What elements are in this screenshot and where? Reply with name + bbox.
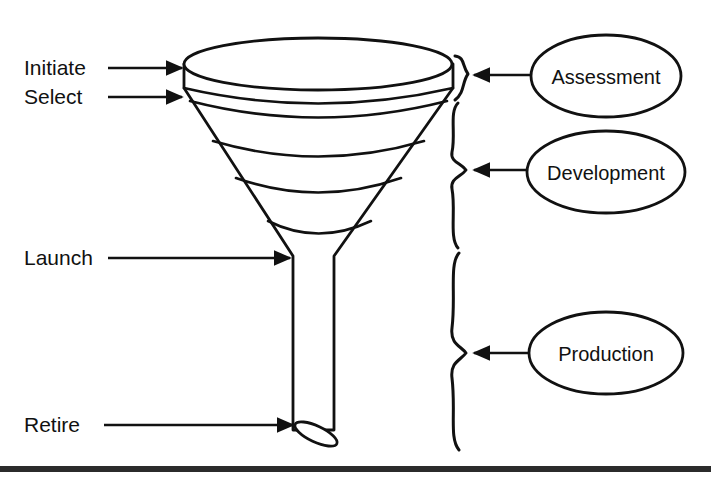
stage-label-retire: Retire	[24, 413, 80, 436]
stage-label-select: Select	[24, 85, 83, 108]
stage-label-launch: Launch	[24, 246, 93, 269]
phase-label-assessment: Assessment	[552, 66, 661, 88]
funnel-rim-ellipse	[184, 38, 452, 90]
brace-assessment	[455, 56, 468, 100]
funnel-lifecycle-figure: Initiate Select Launch Retire Assessment	[0, 0, 711, 485]
phase-label-development: Development	[547, 162, 665, 184]
phase-label-production: Production	[558, 343, 654, 365]
funnel-diagram-canvas: Initiate Select Launch Retire Assessment	[0, 0, 711, 485]
brace-production	[452, 253, 466, 450]
funnel-graphic	[184, 38, 453, 451]
funnel-cone-body	[184, 64, 453, 430]
stage-label-initiate: Initiate	[24, 56, 86, 79]
phase-callouts: Assessment Development Production	[474, 35, 685, 394]
phase-braces	[452, 56, 468, 450]
footer-divider-bar	[0, 466, 711, 472]
brace-development	[452, 103, 466, 248]
